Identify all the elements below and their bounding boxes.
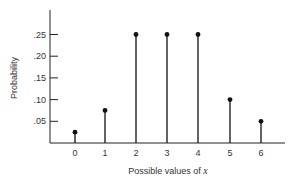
x-tick-label: 3 [164,148,169,158]
y-tick-label: .25 [33,30,46,40]
stem-chart: .05.10.15.20.25 0123456 Probability Poss… [0,0,294,181]
y-tick-label: .05 [33,116,46,126]
stem-point [103,108,108,113]
stem-point [196,32,201,37]
stem-point [228,97,233,102]
x-tick-label: 0 [72,148,77,158]
y-tick-label: .10 [33,95,46,105]
stem-point [259,119,264,124]
x-tick-label: 4 [195,148,200,158]
x-tick-label: 5 [227,148,232,158]
stems [73,32,264,143]
stem-point [134,32,139,37]
x-tick-labels: 0123456 [72,148,263,158]
x-tick-label: 1 [102,148,107,158]
x-tick-label: 6 [258,148,263,158]
y-tick-label: .15 [33,73,46,83]
y-tick-label: .20 [33,51,46,61]
stem-point [165,32,170,37]
x-axis-title: Possible values of x [128,165,208,176]
x-tick-label: 2 [133,148,138,158]
stem-point [73,130,78,135]
y-axis-title: Probability [9,56,19,99]
y-ticks: .05.10.15.20.25 [33,30,58,127]
